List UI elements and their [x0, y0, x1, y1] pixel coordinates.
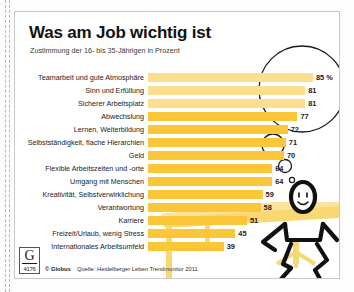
- bar-value-label: 39: [227, 242, 235, 251]
- bar-category-label: Sicherer Arbeitsplatz: [78, 99, 144, 108]
- bar-category-label: Verantwortung: [98, 203, 144, 212]
- bar-value-label: 81: [308, 86, 316, 95]
- bar-category-label: Lernen, Weiterbildung: [74, 125, 144, 134]
- chart-row: Sinn und Erfüllung81: [148, 86, 313, 95]
- chart-row: Internationales Arbeitsumfeld39: [148, 242, 313, 251]
- bar: 81: [148, 99, 305, 108]
- crop-guide-line: [5, 0, 6, 292]
- bar: 81: [148, 86, 305, 95]
- bar-category-label: Abwechslung: [101, 112, 144, 121]
- source-text: Quelle: Heidelberger Leben Trendmonitor …: [77, 266, 198, 272]
- bar-category-label: Karriere: [118, 216, 144, 225]
- bar-value-label: 81: [308, 99, 316, 108]
- crop-guide-line: [9, 0, 10, 292]
- chart-row: Teamarbeit und gute Atmosphäre85 %: [148, 73, 313, 82]
- bar: 71: [148, 138, 286, 147]
- chart-row: Flexible Arbeitszeiten und -orte64: [148, 164, 313, 173]
- bar-category-label: Internationales Arbeitsumfeld: [51, 242, 144, 251]
- chart-row: Selbstständigkeit, flache Hierarchien71: [148, 138, 313, 147]
- bar: 59: [148, 190, 263, 199]
- chart-row: Lernen, Weiterbildung72: [148, 125, 313, 134]
- bar-category-label: Geld: [129, 151, 144, 160]
- bar: 64: [148, 164, 272, 173]
- bar-value-label: 71: [289, 138, 297, 147]
- bar: 51: [148, 216, 247, 225]
- bar: 58: [148, 203, 261, 212]
- bar-category-label: Umgang mit Menschen: [70, 177, 144, 186]
- bar: 45: [148, 229, 235, 238]
- bar: 85 %: [148, 73, 313, 82]
- bar-category-label: Freizeit/Urlaub, wenig Stress: [52, 229, 144, 238]
- bar: 77: [148, 112, 297, 121]
- bar-category-label: Sinn und Erfüllung: [85, 86, 144, 95]
- bar: 39: [148, 242, 224, 251]
- chart-row: Geld70: [148, 151, 313, 160]
- bar-value-label: 70: [287, 151, 295, 160]
- infographic-card: Was am Job wichtig ist Zustimmung der 16…: [14, 11, 340, 279]
- bar-value-label: 58: [264, 203, 272, 212]
- bar-chart: Teamarbeit und gute Atmosphäre85 %Sinn u…: [15, 12, 340, 279]
- bar-value-label: 59: [266, 190, 274, 199]
- bar-value-label: 72: [291, 125, 299, 134]
- bar-category-label: Selbstständigkeit, flache Hierarchien: [28, 138, 144, 147]
- bar: 70: [148, 151, 284, 160]
- logo-letter: G: [24, 249, 34, 263]
- chart-row: Kreativität, Selbstverwirklichung59: [148, 190, 313, 199]
- bar-value-label: 45: [238, 229, 246, 238]
- bar-category-label: Kreativität, Selbstverwirklichung: [43, 190, 144, 199]
- copyright-text: © Globus: [45, 266, 71, 272]
- bar-value-label: 77: [300, 112, 308, 121]
- chart-row: Abwechslung77: [148, 112, 313, 121]
- logo-number: 4176: [23, 266, 35, 272]
- logo-rule: [22, 263, 37, 264]
- chart-row: Freizeit/Urlaub, wenig Stress45: [148, 229, 313, 238]
- bar-value-label: 64: [275, 164, 283, 173]
- bar: 72: [148, 125, 288, 134]
- bar: 64: [148, 177, 272, 186]
- bar-value-label: 85 %: [316, 73, 333, 82]
- chart-row: Umgang mit Menschen64: [148, 177, 313, 186]
- chart-row: Verantwortung58: [148, 203, 313, 212]
- bar-value-label: 51: [250, 216, 258, 225]
- bar-value-label: 64: [275, 177, 283, 186]
- infographic-root: Was am Job wichtig ist Zustimmung der 16…: [0, 0, 354, 292]
- chart-row: Sicherer Arbeitsplatz81: [148, 99, 313, 108]
- chart-row: Karriere51: [148, 216, 313, 225]
- globus-logo: G 4176: [19, 247, 40, 274]
- bar-category-label: Teamarbeit und gute Atmosphäre: [38, 73, 144, 82]
- bar-category-label: Flexible Arbeitszeiten und -orte: [45, 164, 144, 173]
